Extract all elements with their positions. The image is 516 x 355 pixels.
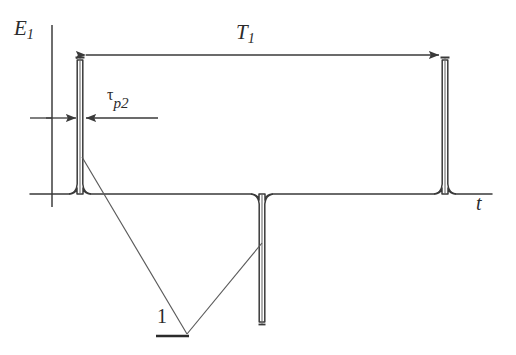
y-axis-label-subscript: 1 (27, 26, 34, 42)
x-axis-label: t (476, 193, 482, 213)
baseline-signal-trace (30, 188, 492, 200)
pulse-2-negative (251, 194, 273, 325)
period-label: T1 (236, 22, 255, 46)
leader-to-pulse-2 (187, 243, 262, 334)
pulse-width-label-subscript: p2 (113, 94, 128, 111)
period-label-base: T (236, 20, 248, 44)
pulse-3-positive (434, 58, 456, 195)
pulse-width-label: τp2 (107, 87, 129, 110)
callout-label-1: 1 (157, 306, 167, 326)
figure-root: E1 T1 τp2 t 1 (0, 0, 516, 355)
pulse-width-subscript-text: p2 (113, 94, 128, 111)
pulse-1-positive (69, 58, 91, 195)
y-axis-label-base: E (14, 16, 27, 40)
leader-to-pulse-1 (82, 157, 187, 334)
callout-1-leaders (82, 157, 262, 336)
y-axis-label: E1 (14, 18, 34, 42)
pulse-train-diagram-svg (0, 0, 516, 355)
period-label-subscript: 1 (248, 30, 255, 46)
axes-group (30, 25, 492, 207)
